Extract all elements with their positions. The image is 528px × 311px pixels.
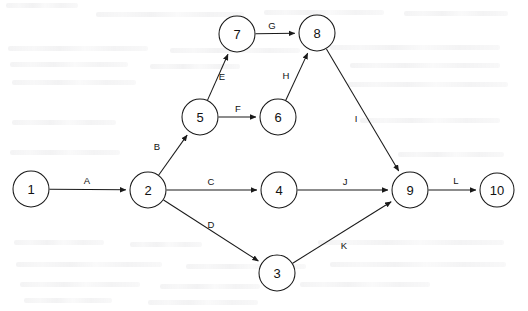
node-5[interactable]: 5 (182, 99, 218, 135)
edge-label-d: D (208, 219, 215, 230)
node-8[interactable]: 8 (299, 15, 335, 51)
edge-label-b: B (154, 141, 160, 152)
node-3[interactable]: 3 (259, 255, 295, 291)
node-label-10: 10 (490, 183, 504, 198)
edge-d (164, 200, 259, 261)
edges-group (50, 33, 476, 263)
node-label-1: 1 (27, 182, 34, 197)
node-4[interactable]: 4 (261, 172, 297, 208)
edge-label-i: I (355, 113, 358, 124)
edge-k (293, 202, 391, 263)
nodes-group: 12345678910 (13, 15, 514, 291)
node-1[interactable]: 1 (13, 171, 49, 207)
node-label-4: 4 (275, 183, 282, 198)
edge-label-g: G (268, 20, 275, 31)
edge-label-e: E (219, 71, 225, 82)
edge-label-l: L (453, 175, 458, 186)
edge-label-a: A (84, 175, 91, 186)
node-7[interactable]: 7 (219, 16, 255, 52)
edge-label-h: H (283, 70, 290, 81)
node-label-7: 7 (233, 27, 240, 42)
edge-label-c: C (208, 176, 215, 187)
node-label-5: 5 (196, 110, 203, 125)
edge-i (326, 49, 398, 171)
edge-label-k: K (341, 240, 348, 251)
node-2[interactable]: 2 (130, 172, 166, 208)
edge-labels-group: ABCDEFGHIJKL (84, 20, 459, 251)
edge-b (159, 135, 187, 175)
network-graph: ABCDEFGHIJKL 12345678910 (0, 0, 528, 311)
node-6[interactable]: 6 (260, 99, 296, 135)
node-label-2: 2 (144, 183, 151, 198)
node-9[interactable]: 9 (392, 172, 428, 208)
edge-a (50, 189, 126, 190)
node-label-9: 9 (406, 183, 413, 198)
node-10[interactable]: 10 (480, 173, 514, 207)
diagram-canvas: ABCDEFGHIJKL 12345678910 (0, 0, 528, 311)
node-label-6: 6 (274, 110, 281, 125)
node-label-3: 3 (273, 266, 280, 281)
edge-label-j: J (343, 176, 348, 187)
edge-label-f: F (235, 103, 241, 114)
node-label-8: 8 (313, 26, 320, 41)
